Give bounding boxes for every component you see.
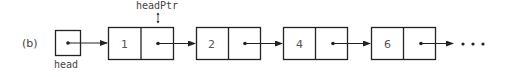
continuation-ellipsis-icon [461, 42, 484, 45]
linked-list-diagram: (b) head headPtr 1 2 4 [0, 0, 506, 77]
node-value: 2 [208, 38, 215, 51]
node-value: 6 [384, 38, 391, 51]
node-value: 4 [296, 38, 303, 51]
head-label: head [54, 59, 78, 70]
list-node: 2 [197, 28, 283, 60]
list-node: 4 [284, 28, 371, 60]
headptr-label: headPtr [136, 0, 178, 11]
list-node: 1 [109, 28, 196, 60]
headptr-annotation: headPtr [136, 0, 178, 24]
head-pointer: head [54, 31, 107, 71]
list-node: 6 [372, 28, 454, 60]
figure-label: (b) [22, 37, 38, 50]
node-value: 1 [121, 38, 128, 51]
